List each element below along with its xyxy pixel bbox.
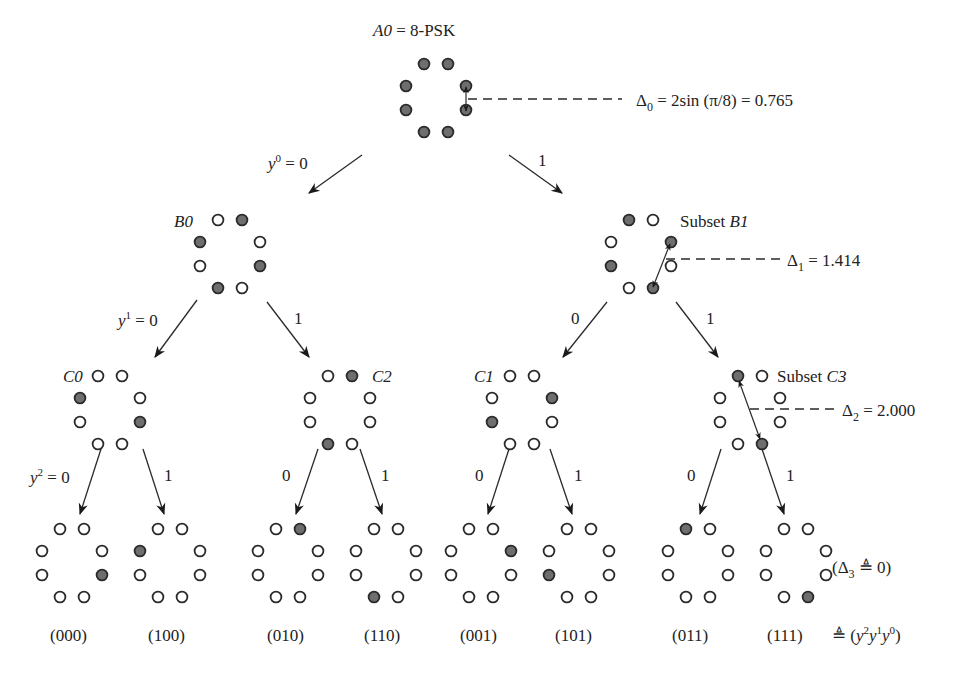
- signal-point-empty: [253, 570, 264, 581]
- signal-point-empty: [624, 283, 635, 294]
- signal-point-empty: [177, 524, 188, 535]
- signal-point-selected: [544, 570, 555, 581]
- constellation-a0: [401, 59, 472, 138]
- signal-point-empty: [506, 570, 517, 581]
- signal-point-selected: [401, 105, 412, 116]
- signal-point-empty: [779, 524, 790, 535]
- signal-point-empty: [93, 439, 104, 450]
- signal-point-selected: [419, 127, 430, 138]
- leaf-label-011: (011): [672, 626, 708, 645]
- constellation-l010: [253, 524, 324, 603]
- edge-c0-100: [143, 449, 164, 514]
- signal-point-empty: [505, 371, 516, 382]
- signal-point-empty: [488, 592, 499, 603]
- signal-point-empty: [117, 439, 128, 450]
- signal-point-selected: [419, 59, 430, 70]
- signal-point-empty: [487, 393, 498, 404]
- leaf-label-111: (111): [767, 626, 803, 645]
- signal-point-empty: [761, 546, 772, 557]
- delta3-label: (Δ3 ≜ 0): [832, 558, 891, 581]
- signal-point-selected: [803, 592, 814, 603]
- signal-point-empty: [411, 546, 422, 557]
- signal-point-empty: [55, 592, 66, 603]
- signal-point-selected: [237, 215, 248, 226]
- leaf-label-100: (100): [148, 626, 185, 645]
- signal-point-empty: [135, 570, 146, 581]
- constellation-l111: [761, 524, 832, 603]
- signal-point-empty: [37, 570, 48, 581]
- branch-label-c3-left: 0: [687, 466, 696, 485]
- subset-label-b1: Subset B1: [680, 212, 748, 231]
- constellation-l000: [37, 524, 108, 603]
- signal-point-selected: [606, 261, 617, 272]
- branch-label-a-right: 1: [538, 151, 547, 170]
- signal-point-empty: [446, 546, 457, 557]
- signal-point-empty: [733, 439, 744, 450]
- branch-label-y0: y0 = 0: [266, 152, 308, 173]
- signal-point-selected: [347, 371, 358, 382]
- edge-c1-101: [550, 449, 572, 514]
- signal-point-empty: [195, 261, 206, 272]
- signal-point-empty: [464, 592, 475, 603]
- subset-label-c1: C1: [474, 367, 494, 386]
- delta1-label: Δ1 = 1.414: [787, 251, 861, 274]
- diagram-canvas: A0 = 8-PSK Δ0 = 2sin (π/8) = 0.765 y0 = …: [0, 0, 966, 678]
- signal-point-empty: [79, 592, 90, 603]
- signal-point-empty: [79, 524, 90, 535]
- edge-c3-011: [700, 449, 721, 514]
- branch-label-b0-right: 1: [294, 309, 303, 328]
- constellation-l100: [135, 524, 206, 603]
- branch-label-c1-right: 1: [574, 466, 583, 485]
- signal-point-selected: [401, 81, 412, 92]
- delta0-label: Δ0 = 2sin (π/8) = 0.765: [636, 91, 793, 114]
- leaf-label-010: (010): [267, 626, 304, 645]
- signal-point-empty: [365, 417, 376, 428]
- signal-point-empty: [323, 371, 334, 382]
- edge-c1-001: [488, 449, 509, 514]
- leaf-label-000: (000): [50, 626, 87, 645]
- signal-point-empty: [761, 570, 772, 581]
- signal-point-selected: [97, 570, 108, 581]
- signal-point-empty: [757, 371, 768, 382]
- signal-point-empty: [529, 371, 540, 382]
- signal-point-selected: [666, 237, 677, 248]
- branch-label-y1: y1 = 0: [116, 309, 158, 330]
- signal-point-empty: [93, 371, 104, 382]
- signal-point-empty: [586, 592, 597, 603]
- signal-point-empty: [715, 417, 726, 428]
- branch-label-c1-left: 0: [475, 466, 484, 485]
- signal-point-empty: [37, 546, 48, 557]
- constellation-points: [37, 59, 832, 603]
- signal-point-selected: [369, 592, 380, 603]
- signal-point-empty: [195, 546, 206, 557]
- leaf-bit-definition: ≜ (y2y1y0): [832, 624, 901, 645]
- signal-point-selected: [213, 283, 224, 294]
- signal-point-empty: [97, 546, 108, 557]
- signal-point-empty: [544, 546, 555, 557]
- signal-point-empty: [393, 592, 404, 603]
- signal-point-empty: [723, 570, 734, 581]
- signal-point-empty: [117, 371, 128, 382]
- leaf-label-001: (001): [460, 626, 497, 645]
- signal-point-empty: [153, 524, 164, 535]
- signal-point-selected: [624, 215, 635, 226]
- signal-point-empty: [821, 570, 832, 581]
- leaf-label-101: (101): [555, 626, 592, 645]
- signal-point-empty: [411, 570, 422, 581]
- constellation-l101: [544, 524, 615, 603]
- signal-point-empty: [271, 524, 282, 535]
- signal-point-empty: [253, 546, 264, 557]
- signal-point-selected: [443, 127, 454, 138]
- signal-point-empty: [604, 570, 615, 581]
- constellation-b0: [195, 215, 266, 294]
- signal-point-selected: [135, 546, 146, 557]
- signal-point-selected: [75, 393, 86, 404]
- signal-point-empty: [775, 417, 786, 428]
- signal-point-selected: [195, 237, 206, 248]
- signal-point-empty: [305, 417, 316, 428]
- signal-point-empty: [547, 417, 558, 428]
- constellation-c2: [305, 371, 376, 450]
- subset-label-c2: C2: [372, 367, 392, 386]
- signal-point-empty: [271, 592, 282, 603]
- signal-point-empty: [237, 283, 248, 294]
